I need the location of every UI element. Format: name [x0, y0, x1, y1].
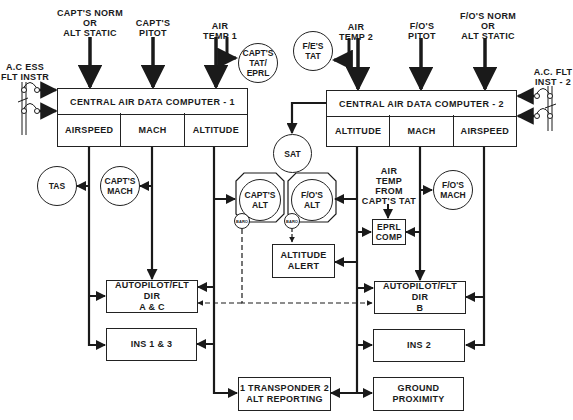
autopilot-flt-dir-ac-box: AUTOPILOT/FLT DIR A & C [106, 280, 198, 313]
fo-static-label: F/O'S NORM OR ALT STATIC [455, 11, 521, 41]
cadc-2: CENTRAL AIR DATA COMPUTER - 2 ALTITUDE M… [326, 90, 517, 147]
cadc-1-title: CENTRAL AIR DATA COMPUTER - 1 [58, 89, 247, 115]
cadc-1-mach: MACH [120, 113, 183, 146]
capt-baro-knob: BARO [234, 213, 250, 229]
ground-proximity-box: GROUND PROXIMITY [373, 377, 464, 411]
fe-tat-indicator: F/E'S TAT [293, 31, 333, 71]
cadc-2-altitude: ALTITUDE [327, 115, 389, 146]
eprl-comp-box: EPRL COMP [372, 219, 406, 245]
ins-1-3-box: INS 1 & 3 [106, 328, 197, 361]
fo-pitot-label: F/O'S PITOT [402, 21, 442, 41]
fo-baro-knob: BARO [284, 213, 300, 229]
ac-flt-inst-2-label: A.C. FLT INST - 2 [533, 67, 573, 87]
cadc-2-title: CENTRAL AIR DATA COMPUTER - 2 [327, 91, 516, 117]
ac-ess-flt-instr-label: A.C ESS FLT INSTR [0, 62, 50, 82]
air-temp-1-label: AIR TEMP 1 [200, 21, 240, 41]
air-temp-2-label: AIR TEMP 2 [336, 22, 376, 42]
ins-2-box: INS 2 [373, 329, 465, 362]
cadc-1-altitude: ALTITUDE [184, 113, 247, 146]
fo-mach-indicator: F/O'S MACH [433, 170, 473, 210]
altitude-alert-box: ALTITUDE ALERT [272, 244, 335, 278]
capt-pitot-label: CAPT'S PITOT [130, 18, 176, 38]
tas-indicator: TAS [37, 166, 77, 206]
capt-static-label: CAPT'S NORM OR ALT STATIC [55, 8, 125, 38]
cadc-2-airspeed: AIRSPEED [453, 115, 516, 146]
transponder-alt-reporting-box: 1 TRANSPONDER 2 ALT REPORTING [238, 377, 331, 411]
air-temp-from-capt-tat-label: AIR TEMP FROM CAPT'S TAT [360, 166, 418, 206]
sat-indicator: SAT [273, 134, 312, 173]
cadc-1: CENTRAL AIR DATA COMPUTER - 1 AIRSPEED M… [57, 88, 248, 147]
autopilot-flt-dir-b-box: AUTOPILOT/FLT DIR B [374, 281, 466, 314]
cadc-1-airspeed: AIRSPEED [58, 113, 120, 146]
capt-mach-indicator: CAPT'S MACH [100, 166, 140, 206]
cadc-2-mach: MACH [389, 115, 452, 146]
capt-tat-eprl-indicator: CAPT'S TAT/ EPRL [238, 43, 278, 83]
